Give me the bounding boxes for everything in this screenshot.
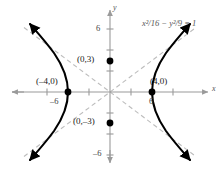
right-branch-lower <box>152 92 190 160</box>
axes-group <box>12 10 208 163</box>
x-tick-label-neg6: –6 <box>50 96 59 106</box>
y-tick-label-6: 6 <box>96 23 100 33</box>
equation-label: x²/16 − y²/9 = 1 <box>142 18 196 28</box>
label-co-vertex-bottom: (0,–3) <box>73 116 95 126</box>
point-vertex-left <box>65 89 72 96</box>
x-axis-label: x <box>212 84 216 93</box>
point-covertex-bottom <box>107 120 114 127</box>
y-tick-label-neg6: –6 <box>93 148 102 158</box>
hyperbola-figure: y x 6 –6 –6 6 (0,3) (0,–3) (–4,0) (4,0) … <box>0 0 223 171</box>
label-co-vertex-top: (0,3) <box>77 54 94 64</box>
label-vertex-right: (4,0) <box>150 76 167 86</box>
equation-text: x²/16 − y²/9 = 1 <box>142 18 196 28</box>
label-vertex-left: (–4,0) <box>36 76 58 86</box>
left-branch-lower <box>30 92 68 160</box>
point-covertex-top <box>107 58 114 65</box>
x-tick-label-6: 6 <box>149 96 153 106</box>
y-axis-label: y <box>113 3 117 12</box>
point-vertex-right <box>149 89 156 96</box>
